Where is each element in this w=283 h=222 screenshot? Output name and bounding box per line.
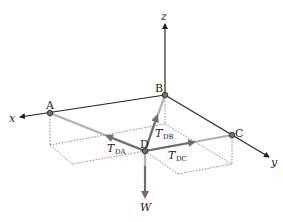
point-label-A: A [45,99,55,112]
point-C [229,132,235,138]
svg-text:DB: DB [163,133,174,141]
point-label-B: B [155,82,163,95]
force-label-W: W [140,201,153,214]
y-axis [165,95,269,157]
axis-label-x: x [9,112,16,125]
axis-label-z: z [160,10,167,23]
statics-diagram: z x y A B C D T DA T DB T DC W [0,0,283,222]
point-label-C: C [235,127,243,140]
projection-lines [50,95,232,174]
point-label-D: D [140,138,149,151]
force-label-T_DC: T DC [168,149,187,163]
x-axis [20,95,165,117]
axis-label-y: y [270,156,278,169]
force-label-T_DA: T DA [107,142,127,156]
cables [50,95,232,170]
svg-text:DC: DC [176,155,187,163]
force-label-T_DB: T DB [155,127,174,141]
svg-text:DA: DA [115,148,127,156]
